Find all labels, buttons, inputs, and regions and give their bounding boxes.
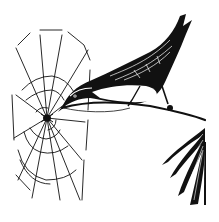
illustration xyxy=(0,0,219,222)
bird xyxy=(58,14,192,112)
leaf-cluster xyxy=(162,128,206,205)
illustration-svg xyxy=(0,0,219,222)
branch xyxy=(62,103,205,121)
